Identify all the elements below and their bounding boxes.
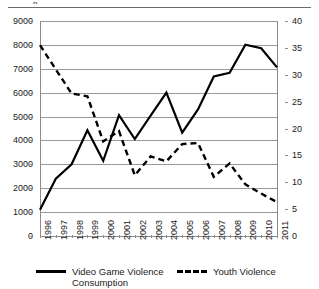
x-axis-tick [56, 235, 57, 238]
chart-figure: p 0100020003000400050006000700080009000 … [0, 0, 319, 289]
y-axis-left-tick [30, 93, 33, 94]
x-axis-tick-label: 2002 [139, 220, 148, 240]
x-axis-tick-label: 2007 [218, 220, 227, 240]
y-axis-right-tick-label: 15 [292, 151, 302, 160]
y-axis-left-tick [30, 21, 33, 22]
y-axis-right-tick-label: 40 [292, 17, 302, 26]
x-axis-labels: 1996199719981999200020012002200320042005… [40, 238, 278, 268]
y-axis-right-tick [285, 48, 288, 49]
x-axis-tick-label: 2005 [186, 220, 195, 240]
legend-label: Youth Violence [213, 266, 276, 277]
x-axis-tick-label: 2010 [265, 220, 274, 240]
y-axis-right-tick [285, 182, 288, 183]
top-horizontal-rule [8, 7, 311, 8]
y-axis-right-tick-label: 25 [292, 98, 302, 107]
y-axis-right-tick-label: 5 [292, 205, 297, 214]
x-axis-tick [151, 235, 152, 238]
legend-entry[interactable]: Video Game Violence Consumption [36, 266, 164, 288]
series-line-1 [40, 45, 277, 202]
x-axis-tick [103, 235, 104, 238]
y-axis-right-tick [285, 21, 288, 22]
y-axis-right-tick-label: 35 [292, 44, 302, 53]
y-axis-left-tick-label: 2000 [5, 184, 33, 193]
y-axis-left-tick-label: 9000 [5, 17, 33, 26]
x-axis-tick [198, 235, 199, 238]
y-axis-right-tick-label: 30 [292, 71, 302, 80]
y-axis-left-tick-label: 6000 [5, 89, 33, 98]
x-axis-tick-label: 2000 [107, 220, 116, 240]
y-axis-left-tick-label: 0 [5, 232, 33, 241]
y-axis-left-labels: 0100020003000400050006000700080009000 [0, 21, 33, 237]
series-line-0 [40, 45, 277, 210]
x-axis-tick-label: 1998 [76, 220, 85, 240]
y-axis-right-tick [285, 102, 288, 103]
plot-area [40, 21, 278, 236]
legend-dashed-line-icon [177, 266, 207, 275]
y-axis-right-tick [285, 209, 288, 210]
x-axis-tick [135, 235, 136, 238]
y-axis-right-tick [285, 75, 288, 76]
chart-legend: Video Game Violence ConsumptionYouth Vio… [36, 266, 311, 289]
x-axis-tick [182, 235, 183, 238]
y-axis-right-tick [285, 155, 288, 156]
y-axis-left-tick-label: 5000 [5, 113, 33, 122]
x-axis-tick-label: 2011 [281, 221, 290, 240]
y-axis-left-tick [30, 164, 33, 165]
y-axis-left-tick [30, 45, 33, 46]
y-axis-left-tick-label: 8000 [5, 41, 33, 50]
y-axis-left-tick-label: 1000 [5, 208, 33, 217]
y-axis-right-tick-label: 0 [292, 232, 297, 241]
y-axis-left-tick [30, 236, 33, 237]
x-axis-tick [230, 235, 231, 238]
legend-label: Video Game Violence Consumption [72, 266, 164, 288]
series-lines [40, 21, 278, 237]
x-axis-tick [214, 235, 215, 238]
x-axis-tick-label: 2009 [249, 220, 258, 240]
legend-solid-line-icon [36, 266, 66, 275]
y-axis-left-tick-label: 3000 [5, 160, 33, 169]
y-axis-right-tick-label: 10 [292, 178, 302, 187]
y-axis-left-tick [30, 69, 33, 70]
y-axis-right-tick [285, 129, 288, 130]
x-axis-tick [40, 235, 41, 238]
x-axis-tick [245, 235, 246, 238]
y-axis-right-tick-label: 20 [292, 125, 302, 134]
x-axis-tick [277, 235, 278, 238]
x-axis-tick-label: 2004 [170, 220, 179, 240]
x-axis-tick [119, 235, 120, 238]
x-axis-tick [261, 235, 262, 238]
x-axis-tick-label: 1999 [91, 220, 100, 240]
y-axis-left-tick [30, 188, 33, 189]
y-axis-left-tick-label: 4000 [5, 136, 33, 145]
x-axis-tick-label: 1996 [44, 220, 53, 240]
x-axis-tick [72, 235, 73, 238]
y-axis-left-tick [30, 117, 33, 118]
x-axis-tick [87, 235, 88, 238]
y-axis-left-tick [30, 140, 33, 141]
x-axis-tick [166, 235, 167, 238]
x-axis-tick-label: 2008 [234, 220, 243, 240]
y-axis-right-labels: 0510152025303540 [283, 21, 313, 237]
y-axis-left-tick-label: 7000 [5, 65, 33, 74]
x-axis-tick-label: 2006 [202, 220, 211, 240]
cropped-caption-descender: p [33, 0, 39, 4]
x-axis-tick-label: 1997 [60, 220, 69, 240]
y-axis-left-tick [30, 212, 33, 213]
x-axis-tick-label: 2001 [123, 220, 132, 240]
legend-entry[interactable]: Youth Violence [177, 266, 276, 277]
x-axis-tick-label: 2003 [155, 220, 164, 240]
